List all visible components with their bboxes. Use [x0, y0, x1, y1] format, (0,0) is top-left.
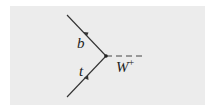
label-b: b [77, 36, 85, 51]
top-quark-arrow-icon [84, 75, 89, 80]
label-w-charge: + [129, 57, 135, 68]
feynman-diagram [0, 0, 213, 112]
label-w-text: W [116, 59, 129, 75]
label-t-text: t [79, 63, 83, 79]
label-w: W+ [116, 58, 134, 75]
label-b-text: b [77, 35, 85, 51]
vertex-dot [104, 54, 108, 58]
label-t: t [79, 64, 83, 79]
